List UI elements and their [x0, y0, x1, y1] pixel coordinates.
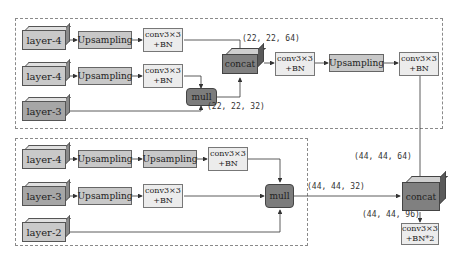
conv-bn-bottom-2: conv3×3+BN: [143, 184, 183, 208]
conv-bn-bottom-1: conv3×3+BN: [208, 147, 248, 171]
label: conv3×3: [145, 66, 181, 76]
concat-op-top: concat: [222, 54, 258, 74]
label: Upsampling: [78, 191, 133, 201]
conv-bn-top-a: conv3×3+BN: [275, 52, 315, 76]
label: layer-3: [26, 191, 61, 202]
dim-label-bottom-mull: (44, 44, 32): [307, 182, 365, 191]
concat-op-final: concat: [402, 182, 440, 211]
label: Upsampling: [78, 154, 133, 164]
upsampling-top-2: Upsampling: [78, 67, 132, 85]
label: conv3×3: [145, 30, 181, 40]
layer-4-input-top-2: layer-4: [22, 66, 66, 86]
label: concat: [225, 59, 255, 69]
label: Upsampling: [78, 35, 133, 45]
conv-bn-top-b: conv3×3+BN: [399, 52, 439, 76]
label: +BN: [153, 196, 173, 206]
upsampling-bottom-2: Upsampling: [78, 187, 132, 205]
upsampling-top-1: Upsampling: [78, 31, 132, 49]
label: concat: [406, 192, 436, 202]
label: +BN: [153, 76, 173, 86]
label: +BN: [218, 159, 238, 169]
mull-op-bottom: mull: [265, 184, 294, 208]
dim-label-top-mull: (22, 22, 32): [207, 102, 265, 111]
upsampling-top-after: Upsampling: [329, 54, 384, 72]
label: layer-2: [26, 227, 61, 238]
label: mull: [269, 191, 289, 201]
label: +BN*2: [406, 234, 435, 244]
label: mull: [191, 92, 211, 102]
label: conv3×3: [402, 224, 438, 234]
label: Upsampling: [329, 58, 384, 68]
label: conv3×3: [210, 149, 246, 159]
conv-bn-final: conv3×3+BN*2: [401, 223, 439, 245]
layer-2-input-bottom: layer-2: [22, 222, 66, 242]
upsampling-bottom-1a: Upsampling: [78, 150, 132, 168]
dim-label-final-out: (44, 44, 96): [362, 210, 420, 219]
label: layer-4: [26, 154, 61, 165]
conv-bn-top-1: conv3×3+BN: [143, 28, 183, 52]
label: Upsampling: [78, 71, 133, 81]
dim-label-top-concat: (22, 22, 64): [242, 34, 300, 43]
layer-3-input-bottom: layer-3: [22, 186, 66, 206]
dim-label-final-top: (44, 44, 64): [354, 152, 412, 161]
label: layer-4: [26, 71, 61, 82]
upsampling-bottom-1b: Upsampling: [143, 150, 197, 168]
label: +BN: [409, 64, 429, 74]
layer-4-input-bottom: layer-4: [22, 149, 66, 169]
label: conv3×3: [145, 186, 181, 196]
layer-4-input-top-1: layer-4: [22, 30, 66, 50]
label: conv3×3: [401, 54, 437, 64]
conv-bn-top-2: conv3×3+BN: [143, 64, 183, 88]
label: layer-3: [26, 106, 61, 117]
label: +BN: [153, 40, 173, 50]
label: layer-4: [26, 35, 61, 46]
label: +BN: [285, 64, 305, 74]
layer-3-input-top: layer-3: [22, 101, 66, 121]
label: Upsampling: [143, 154, 198, 164]
label: conv3×3: [277, 54, 313, 64]
